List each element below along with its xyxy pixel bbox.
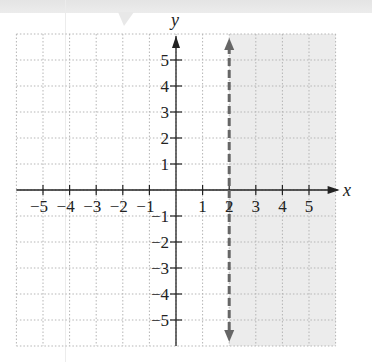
x-tick-label: 3 [252, 197, 261, 216]
y-tick-label: −1 [151, 207, 169, 226]
x-tick-label: 1 [198, 197, 207, 216]
x-tick-label: 5 [305, 197, 314, 216]
y-tick-label: 5 [161, 51, 170, 70]
x-tick-label: 2 [225, 197, 234, 216]
y-tick-label: 1 [161, 155, 170, 174]
coordinate-plane: −5−4−3−2−11234554321−1−2−3−4−5 x y [0, 0, 372, 362]
y-tick-label: 4 [161, 77, 170, 96]
y-tick-label: 2 [161, 129, 170, 148]
y-tick-label: −3 [151, 259, 169, 278]
y-tick-label: −4 [151, 285, 170, 304]
x-tick-label: −5 [30, 197, 48, 216]
y-tick-label: −2 [151, 233, 169, 252]
x-tick-label: −3 [83, 197, 101, 216]
x-tick-label: −4 [57, 197, 76, 216]
y-axis-arrow-icon [172, 36, 180, 48]
y-axis-label: y [169, 10, 179, 30]
y-tick-label: 3 [161, 103, 170, 122]
y-tick-label: −5 [151, 311, 169, 330]
x-tick-label: −2 [110, 197, 128, 216]
x-axis-label: x [342, 180, 351, 200]
x-tick-label: 4 [278, 197, 287, 216]
